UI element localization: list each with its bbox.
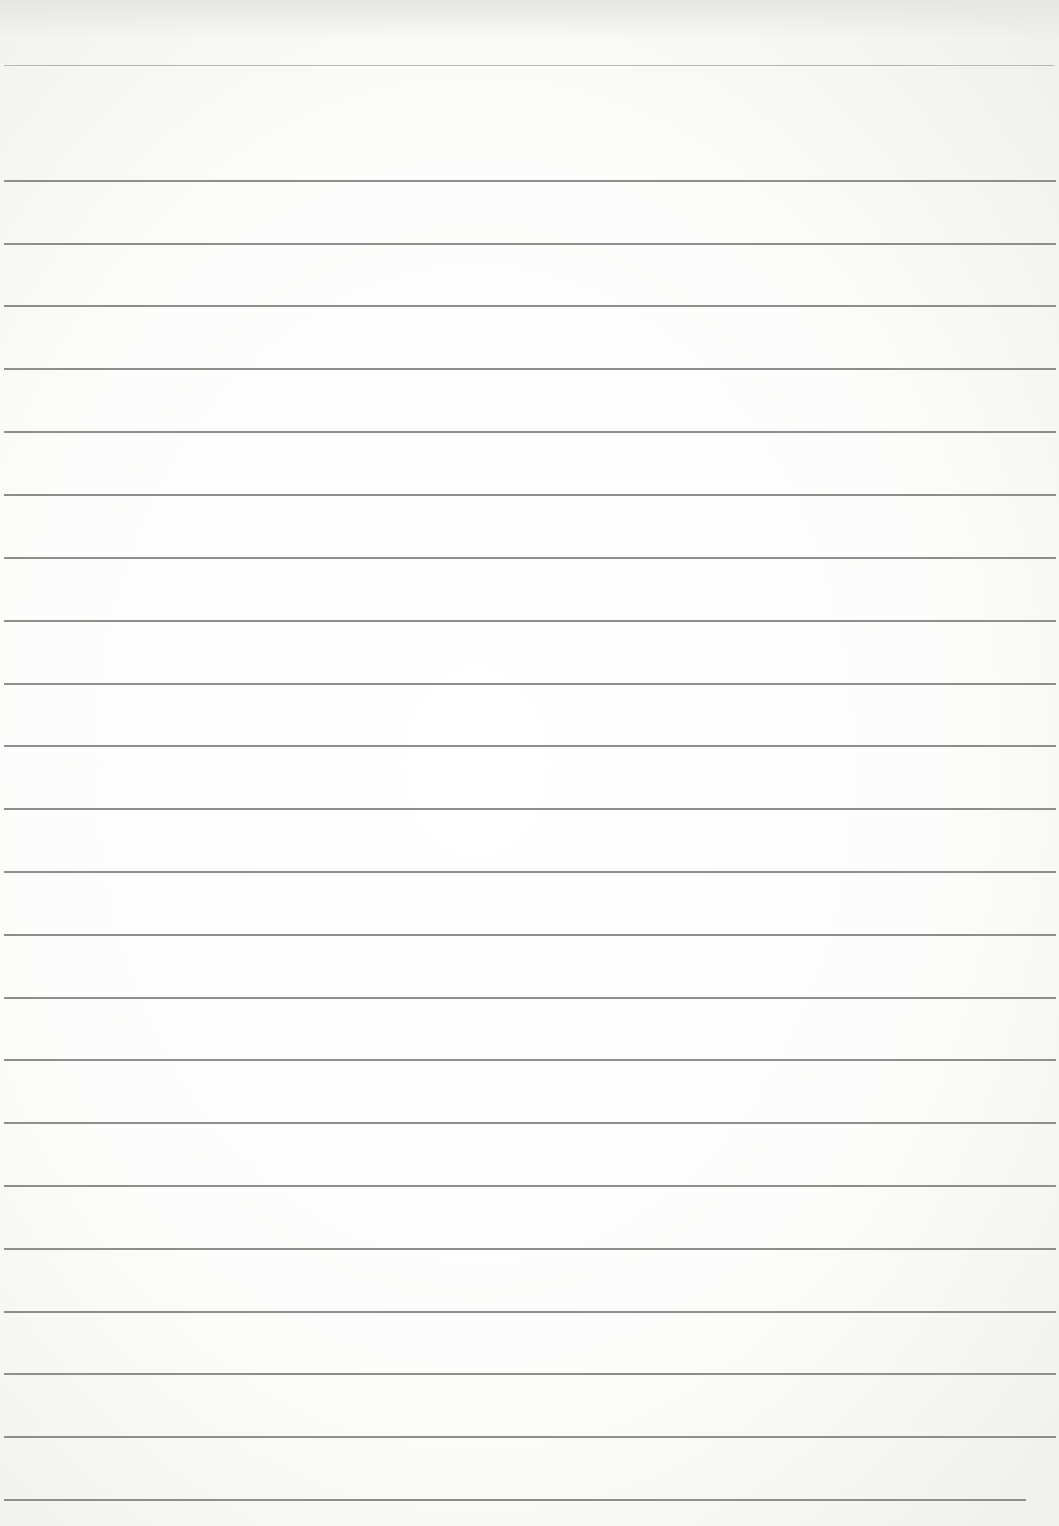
ruled-line <box>4 1311 1056 1313</box>
ruled-line <box>4 180 1056 182</box>
ruled-line <box>4 997 1056 999</box>
ruled-line <box>4 1373 1056 1375</box>
ruled-line <box>4 1059 1056 1061</box>
ruled-line <box>4 1499 1026 1501</box>
ruled-line <box>4 1436 1056 1438</box>
ruled-line <box>4 620 1056 622</box>
lined-paper-page <box>0 0 1059 1526</box>
top-shadow <box>0 0 1059 40</box>
ruled-line <box>4 683 1056 685</box>
ruled-line <box>4 494 1056 496</box>
ruled-line <box>4 368 1056 370</box>
header-rule <box>4 65 1054 66</box>
ruled-line <box>4 1185 1056 1187</box>
ruled-line <box>4 305 1056 307</box>
ruled-line <box>4 1122 1056 1124</box>
ruled-line <box>4 1248 1056 1250</box>
ruled-line <box>4 745 1056 747</box>
ruled-line <box>4 808 1056 810</box>
ruled-line <box>4 871 1056 873</box>
ruled-line <box>4 934 1056 936</box>
ruled-line <box>4 431 1056 433</box>
ruled-line <box>4 243 1056 245</box>
ruled-line <box>4 557 1056 559</box>
